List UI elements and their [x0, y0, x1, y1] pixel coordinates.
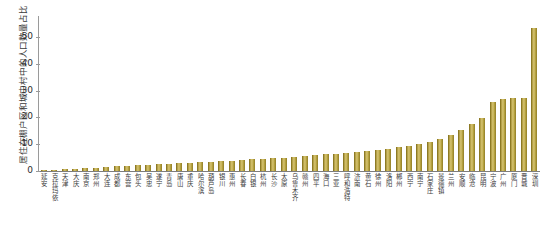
- bar-slot: [384, 16, 394, 172]
- x-axis-tick-label: 包头: [133, 174, 143, 188]
- bar-slot: [154, 16, 164, 172]
- x-axis-tick-label: 西宁: [405, 174, 415, 188]
- x-axis-tick-label: 大庆: [71, 174, 81, 188]
- bar-slot: [530, 16, 540, 172]
- bar-slot: [238, 16, 248, 172]
- bar: [103, 167, 109, 171]
- y-axis-tick-label: 0: [27, 165, 33, 176]
- x-axis-tick-label: 长春: [238, 174, 248, 188]
- x-axis-tick-label: 景德镇: [436, 174, 446, 195]
- bar-slot: [425, 16, 435, 172]
- bar-slot: [436, 16, 446, 172]
- x-axis-tick-label: 哈尔滨: [196, 174, 206, 195]
- bar: [510, 98, 516, 171]
- bar-chart: 居住在棚户区和城中村中的人口数量占比（%） 01020304050 延安克拉玛依…: [0, 0, 543, 225]
- x-axis-tick-label: 太原: [279, 174, 289, 188]
- x-axis-tick-label: 三亚: [331, 174, 341, 188]
- bar: [291, 157, 297, 171]
- bar-slot: [300, 16, 310, 172]
- bar: [396, 147, 402, 171]
- bar-slot: [363, 16, 373, 172]
- x-axis-tick-label: 四平: [311, 174, 321, 188]
- bar: [249, 159, 255, 171]
- bar: [302, 156, 308, 171]
- bar-slot: [488, 16, 498, 172]
- x-axis-tick-label: 兰州: [446, 174, 456, 188]
- x-axis-tick-label: 广州: [498, 174, 508, 188]
- bar: [406, 146, 412, 171]
- bar: [437, 139, 443, 171]
- bar-slot: [311, 16, 321, 172]
- bar: [448, 135, 454, 171]
- bar: [385, 149, 391, 172]
- bar-slot: [248, 16, 258, 172]
- bar-slot: [206, 16, 216, 172]
- bar: [260, 159, 266, 171]
- bar-series: [39, 16, 540, 172]
- x-axis-tick-label: 呼和浩特: [342, 174, 352, 202]
- x-axis-tick-label: 克拉玛依: [50, 174, 60, 202]
- bar-slot: [71, 16, 81, 172]
- bar-slot: [290, 16, 300, 172]
- bar: [521, 98, 527, 171]
- bar-slot: [342, 16, 352, 172]
- x-axis-tick-label: 洛阳: [384, 174, 394, 188]
- bar-slot: [446, 16, 456, 172]
- y-axis-tick-label: 20: [22, 111, 33, 122]
- x-axis-tick-label: 徐州: [373, 174, 383, 188]
- bar: [500, 99, 506, 171]
- x-axis-tick-label: 赣州: [300, 174, 310, 188]
- bar-slot: [39, 16, 49, 172]
- x-axis-tick-label: 重庆: [185, 174, 195, 188]
- bar-slot: [405, 16, 415, 172]
- x-axis-tick-label: 延安: [39, 174, 49, 188]
- x-axis-tick-label: 宁波: [488, 174, 498, 188]
- y-axis-tick-label: 30: [22, 85, 33, 96]
- bar: [145, 165, 151, 171]
- bar: [323, 154, 329, 171]
- bar-slot: [258, 16, 268, 172]
- bar: [229, 161, 235, 171]
- bar: [166, 164, 172, 171]
- x-axis-tick-label: 杭州: [258, 174, 268, 188]
- y-axis-tick-label: 10: [22, 138, 33, 149]
- x-axis-tick-label: 大连: [102, 174, 112, 188]
- bar: [343, 153, 349, 171]
- bar: [187, 163, 193, 171]
- bar-slot: [394, 16, 404, 172]
- x-axis-tick-label: 济南: [352, 174, 362, 188]
- bar-slot: [227, 16, 237, 172]
- bar-slot: [102, 16, 112, 172]
- y-axis-tick-label: 50: [22, 31, 33, 42]
- bar-slot: [91, 16, 101, 172]
- bar: [375, 150, 381, 171]
- x-axis-tick-label: 安顺: [457, 174, 467, 188]
- bar: [270, 158, 276, 171]
- bar: [135, 165, 141, 171]
- x-axis-tick-label: 海口: [321, 174, 331, 188]
- bar-slot: [467, 16, 477, 172]
- bar-slot: [175, 16, 185, 172]
- x-axis-tick-labels: 延安克拉玛依天津大庆南京郑州大连成都东营包头吴忠遂宁青岛唐山重庆哈尔滨葫芦岛银川…: [39, 174, 540, 225]
- x-axis-tick-label: 唐山: [175, 174, 185, 188]
- bar: [416, 144, 422, 171]
- bar: [124, 166, 130, 171]
- bar: [72, 169, 78, 171]
- bar-slot: [321, 16, 331, 172]
- bar: [82, 168, 88, 171]
- bar: [218, 161, 224, 171]
- x-axis-tick-label: 银川: [217, 174, 227, 188]
- x-axis-tick-label: 晋城: [519, 174, 529, 188]
- x-axis-tick-label: 天津: [60, 174, 70, 188]
- bar: [208, 162, 214, 171]
- x-axis-tick-label: 南京: [81, 174, 91, 188]
- x-axis-tick-label: 长沙: [269, 174, 279, 188]
- x-axis-tick-label: 郴州: [394, 174, 404, 188]
- bar: [176, 163, 182, 171]
- x-axis-tick-label: 成都: [112, 174, 122, 188]
- bar: [458, 130, 464, 171]
- bar: [312, 155, 318, 171]
- bar-slot: [373, 16, 383, 172]
- bar: [354, 152, 360, 171]
- bar-slot: [133, 16, 143, 172]
